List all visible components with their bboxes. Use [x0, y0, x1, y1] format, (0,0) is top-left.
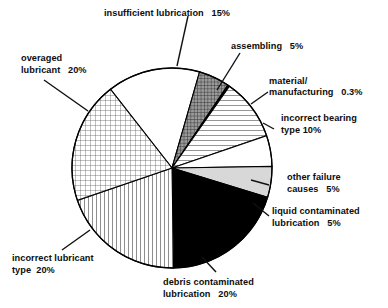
- leader-line-material-manufacturing: [251, 92, 268, 104]
- label-debris-contaminated-line2: lubrication 20%: [163, 289, 237, 301]
- leader-line-insufficient-lubrication: [177, 16, 188, 66]
- label-other-failure-causes-line2: causes 5%: [287, 184, 340, 196]
- label-liquid-contaminated-line2: lubrication 5%: [272, 218, 341, 230]
- leader-line-incorrect-lubricant-type: [62, 230, 90, 250]
- label-overaged-lubricant-line1: overaged: [21, 53, 62, 65]
- label-incorrect-lubricant-type-line2: type 20%: [12, 265, 55, 277]
- label-other-failure-causes-line1: other failure: [287, 172, 341, 184]
- label-assembling: assembling 5%: [231, 41, 303, 53]
- pie-chart-figure: insufficient lubrication 15% assembling …: [0, 0, 388, 308]
- label-material-manufacturing-line2: manufacturing 0.3%: [269, 87, 362, 99]
- label-overaged-lubricant-line2: lubricant 20%: [21, 65, 87, 77]
- label-incorrect-lubricant-type-line1: incorrect lubricant: [12, 253, 94, 265]
- label-material-manufacturing-line1: material/: [269, 76, 307, 88]
- leader-line-incorrect-bearing-type: [263, 123, 274, 129]
- label-insufficient-lubrication: insufficient lubrication 15%: [104, 8, 230, 20]
- leader-line-overaged-lubricant: [44, 80, 88, 111]
- label-incorrect-bearing-type-line2: type 10%: [281, 125, 321, 137]
- label-liquid-contaminated-line1: liquid contaminated: [272, 206, 360, 218]
- pie-slices-group: [72, 68, 272, 268]
- leader-line-assembling: [217, 53, 240, 90]
- label-debris-contaminated-line1: debris contaminated: [163, 277, 254, 289]
- label-incorrect-bearing-type-line1: incorrect bearing: [281, 113, 357, 125]
